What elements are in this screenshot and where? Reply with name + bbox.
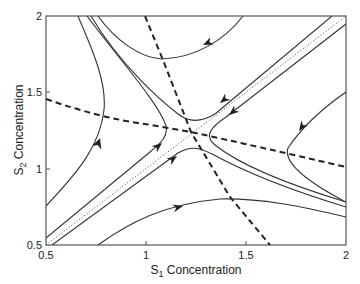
trajectory-left [46, 16, 104, 206]
x-tick-1: 1 [143, 249, 149, 261]
arrow-icon-upper-band-lower [226, 106, 239, 119]
y-tick-1: 1 [36, 163, 42, 175]
x-tick-2: 2 [343, 249, 349, 261]
trajectory-lower-band-upper [46, 16, 166, 238]
y-tick-0.5: 0.5 [27, 239, 42, 251]
tick-marks [46, 92, 246, 245]
x-axis-label: S1 Concentration [150, 263, 241, 279]
arrow-icon-lower-band-upper [152, 140, 165, 153]
phase-plane-chart: 0.5 1 1.5 2 0.5 1 1.5 2 S1 Concentration… [0, 0, 360, 284]
arrow-icon-upper-band-upper [217, 94, 230, 107]
y-tick-1.5: 1.5 [27, 86, 42, 98]
arrow-icon-right [296, 121, 308, 134]
trajectory-top-u [98, 16, 243, 59]
trajectory-bottom [98, 199, 346, 245]
y-axis-label: S2 Concentration [12, 84, 28, 175]
y-tick-2: 2 [36, 10, 42, 22]
trajectory-upper-band-lower [209, 24, 346, 202]
x-tick-1.5: 1.5 [238, 249, 253, 261]
arrow-icon-lower-band-lower [167, 153, 180, 165]
nullcline-shallow [46, 99, 346, 167]
